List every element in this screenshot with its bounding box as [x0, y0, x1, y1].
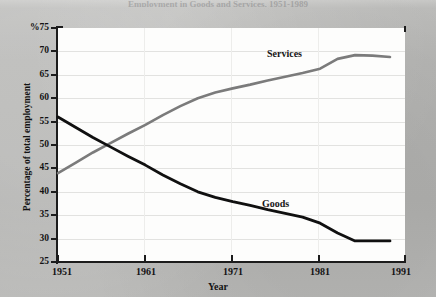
series-label-services: Services: [267, 48, 302, 59]
series-curves: [0, 0, 436, 297]
series-label-goods: Goods: [262, 198, 289, 209]
goods-line: [58, 117, 390, 241]
services-line: [58, 55, 390, 173]
employment-line-chart: %75 70 65 60 55 50 45 40 35 30 25 1951 1…: [0, 0, 436, 297]
